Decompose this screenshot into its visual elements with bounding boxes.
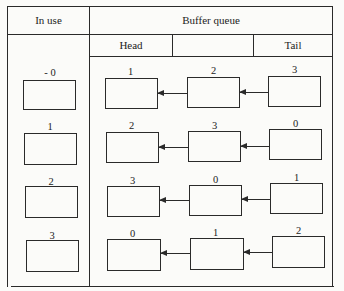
head-buffer-box	[107, 239, 161, 271]
subheader-divider	[89, 56, 332, 57]
subheader-divider-1	[172, 34, 173, 56]
buffer-label: 1	[24, 121, 76, 133]
tail-buffer-box	[269, 129, 322, 160]
buffer-box	[23, 80, 76, 110]
middle-buffer-box	[189, 185, 242, 216]
buffer-label: - 0	[24, 67, 76, 79]
head-buffer-box	[106, 132, 159, 163]
arrow-left-icon	[160, 200, 189, 201]
in-use-header: In use	[8, 14, 89, 26]
table-border-left	[7, 6, 8, 287]
arrow-left-icon	[159, 147, 188, 148]
head-buffer-label: 1	[104, 66, 157, 78]
tail-buffer-box	[270, 183, 323, 214]
tail-buffer-box	[272, 236, 325, 268]
table-border-right	[332, 6, 333, 287]
table-border-bottom	[11, 286, 334, 287]
middle-buffer-label: 2	[187, 65, 240, 77]
tail-label: Tail	[254, 39, 332, 51]
arrow-left-icon	[161, 253, 190, 254]
arrow-left-icon	[244, 252, 272, 253]
buffer-box	[25, 186, 78, 218]
head-buffer-box	[107, 186, 160, 217]
tail-buffer-label: 3	[268, 64, 321, 76]
head-buffer-label: 2	[105, 120, 158, 132]
arrow-left-icon	[158, 93, 188, 94]
buffer-box	[26, 240, 79, 272]
header-divider	[7, 34, 332, 35]
middle-buffer-box	[187, 77, 240, 108]
head-label: Head	[90, 39, 172, 51]
arrow-left-icon	[241, 146, 269, 147]
head-buffer-box	[105, 78, 158, 109]
buffer-queue-header: Buffer queue	[90, 14, 332, 26]
middle-buffer-box	[190, 238, 244, 270]
arrow-left-icon	[240, 92, 268, 93]
middle-buffer-box	[188, 131, 241, 162]
table-border-top	[7, 6, 332, 7]
buffer-box	[24, 133, 77, 165]
tail-buffer-box	[268, 76, 321, 107]
arrow-left-icon	[242, 199, 270, 200]
